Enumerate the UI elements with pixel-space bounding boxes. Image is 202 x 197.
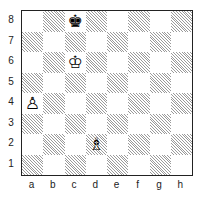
square-d2: ♗	[86, 134, 107, 155]
square-g6	[150, 52, 171, 73]
square-b7	[43, 32, 64, 53]
rank-label-5: 5	[6, 76, 16, 87]
square-g5	[150, 73, 171, 94]
square-h4	[171, 93, 192, 114]
square-g7	[150, 32, 171, 53]
square-c6: ♔	[65, 52, 86, 73]
square-b1	[43, 155, 64, 176]
file-label-e: e	[106, 179, 127, 190]
white-bishop-icon: ♗	[89, 136, 104, 153]
square-e2	[107, 134, 128, 155]
square-d7	[86, 32, 107, 53]
square-c2	[65, 134, 86, 155]
square-d1	[86, 155, 107, 176]
white-king-icon: ♔	[68, 54, 83, 71]
square-b2	[43, 134, 64, 155]
square-e8	[107, 11, 128, 32]
square-e6	[107, 52, 128, 73]
square-a8	[22, 11, 43, 32]
square-c7	[65, 32, 86, 53]
square-d5	[86, 73, 107, 94]
file-label-d: d	[85, 179, 106, 190]
square-f2	[128, 134, 149, 155]
file-label-a: a	[21, 179, 42, 190]
square-f5	[128, 73, 149, 94]
square-e7	[107, 32, 128, 53]
square-e1	[107, 155, 128, 176]
square-f1	[128, 155, 149, 176]
square-g1	[150, 155, 171, 176]
square-b5	[43, 73, 64, 94]
rank-label-7: 7	[6, 35, 16, 46]
square-h8	[171, 11, 192, 32]
square-e4	[107, 93, 128, 114]
square-d8	[86, 11, 107, 32]
square-d3	[86, 114, 107, 135]
white-pawn-icon: ♙	[25, 95, 40, 112]
square-f6	[128, 52, 149, 73]
square-b6	[43, 52, 64, 73]
rank-label-6: 6	[6, 55, 16, 66]
square-a4: ♙	[22, 93, 43, 114]
square-a2	[22, 134, 43, 155]
square-f7	[128, 32, 149, 53]
file-label-c: c	[64, 179, 85, 190]
black-king-icon: ♚	[68, 13, 83, 30]
square-b4	[43, 93, 64, 114]
file-label-g: g	[149, 179, 170, 190]
square-a7	[22, 32, 43, 53]
rank-label-1: 1	[6, 158, 16, 169]
square-h5	[171, 73, 192, 94]
rank-label-2: 2	[6, 137, 16, 148]
square-d4	[86, 93, 107, 114]
rank-label-4: 4	[6, 96, 16, 107]
square-h6	[171, 52, 192, 73]
rank-label-8: 8	[6, 14, 16, 25]
square-g8	[150, 11, 171, 32]
square-d6	[86, 52, 107, 73]
square-c8: ♚	[65, 11, 86, 32]
square-a5	[22, 73, 43, 94]
square-c3	[65, 114, 86, 135]
square-f4	[128, 93, 149, 114]
square-a6	[22, 52, 43, 73]
square-g4	[150, 93, 171, 114]
square-a1	[22, 155, 43, 176]
square-a3	[22, 114, 43, 135]
square-e5	[107, 73, 128, 94]
square-f3	[128, 114, 149, 135]
square-c1	[65, 155, 86, 176]
file-label-b: b	[42, 179, 63, 190]
chessboard: ♚♔♙♗	[21, 10, 193, 176]
square-g3	[150, 114, 171, 135]
square-h1	[171, 155, 192, 176]
square-c5	[65, 73, 86, 94]
rank-label-3: 3	[6, 117, 16, 128]
square-g2	[150, 134, 171, 155]
square-h7	[171, 32, 192, 53]
square-e3	[107, 114, 128, 135]
square-b8	[43, 11, 64, 32]
file-label-f: f	[127, 179, 148, 190]
file-label-h: h	[170, 179, 191, 190]
square-h2	[171, 134, 192, 155]
square-h3	[171, 114, 192, 135]
square-f8	[128, 11, 149, 32]
square-b3	[43, 114, 64, 135]
square-c4	[65, 93, 86, 114]
